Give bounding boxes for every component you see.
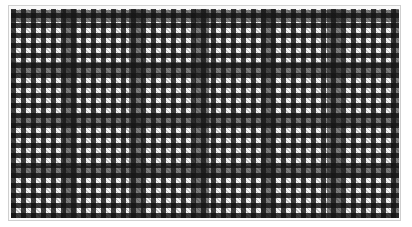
- plaid-fabric-image: [11, 9, 399, 218]
